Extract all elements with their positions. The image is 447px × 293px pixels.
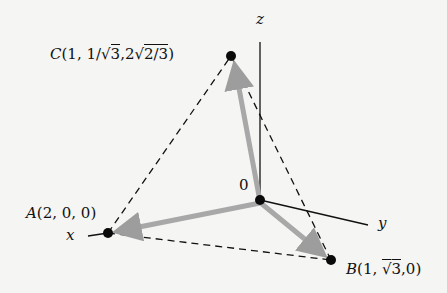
diagram-canvas [0, 0, 447, 293]
point-C-prefix: (1, 1/ [61, 45, 101, 63]
point-A-coords: (2, 0, 0) [37, 204, 96, 222]
point-origin [255, 195, 265, 205]
point-A-label: A(2, 0, 0) [26, 206, 96, 221]
point-C-sqrt2: 2/3 [144, 44, 168, 63]
point-C-mid: ,2 [120, 45, 134, 63]
point-C-sqrt1: 3 [111, 44, 121, 63]
edge-AB [108, 233, 331, 260]
point-B [326, 255, 336, 265]
tetrahedron-diagram: z y x 0 A(2, 0, 0) B(1, √3,0) C(1, 1/√3,… [0, 0, 447, 293]
y-axis-label: y [378, 216, 386, 231]
sqrt-symbol: √ [382, 260, 392, 278]
point-B-suffix: ,0) [401, 260, 421, 278]
point-B-label: B(1, √3,0) [346, 262, 421, 277]
point-A-letter: A [26, 204, 37, 222]
vector-OA [124, 203, 260, 230]
point-C [226, 51, 236, 61]
point-B-sqrt: 3 [392, 259, 402, 278]
origin-label: 0 [239, 178, 249, 193]
edge-BC [231, 56, 331, 260]
x-axis-label: x [66, 228, 74, 243]
point-B-prefix: (1, [357, 260, 382, 278]
point-B-letter: B [346, 260, 357, 278]
point-A [103, 228, 113, 238]
point-C-label: C(1, 1/√3,2√2/3) [50, 47, 174, 62]
point-C-letter: C [50, 45, 61, 63]
z-axis-label: z [256, 12, 264, 27]
point-C-suffix: ) [168, 45, 174, 63]
sqrt-symbol: √ [134, 45, 144, 63]
edge-AC [108, 56, 231, 233]
sqrt-symbol: √ [101, 45, 111, 63]
